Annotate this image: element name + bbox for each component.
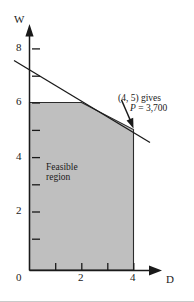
x-axis-name: D: [166, 274, 174, 286]
linear-programming-figure: 8 6 4 2 0 2 4 W D Feasible region (4, 5)…: [0, 0, 194, 302]
y-tick-label-4: 4: [16, 151, 22, 163]
y-tick-label-6: 6: [16, 96, 22, 108]
w-axis-arrowhead: [25, 24, 33, 37]
feasible-region-polygon: [30, 103, 134, 271]
feasible-region-label-line2: region: [46, 173, 78, 183]
y-tick-label-2: 2: [16, 205, 22, 217]
y-tick-label-0: 0: [16, 272, 22, 284]
y-axis-name: W: [14, 14, 24, 26]
optimum-callout-profit: P = 3,700: [118, 104, 167, 114]
plot-canvas: [0, 0, 194, 302]
d-axis-arrowhead: [149, 266, 162, 276]
optimum-callout: (4, 5) gives P = 3,700: [118, 94, 167, 114]
x-tick-label-4: 4: [130, 272, 136, 284]
feasible-region-label: Feasible region: [46, 163, 78, 183]
x-tick-label-2: 2: [78, 272, 84, 284]
profit-value: = 3,700: [136, 103, 167, 113]
y-tick-label-8: 8: [16, 42, 22, 54]
